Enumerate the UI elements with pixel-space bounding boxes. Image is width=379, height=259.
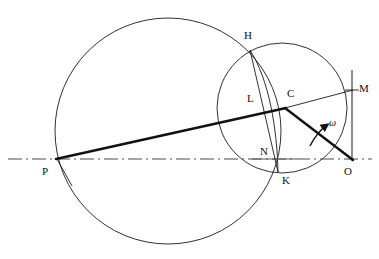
large-circle: [55, 18, 281, 244]
point-label-o: O: [344, 166, 352, 177]
geometry-canvas: [0, 0, 379, 259]
segment-c-o: [285, 108, 353, 160]
segment-p-c: [56, 108, 286, 159]
geometry-figure: H C M L N K P O ω: [0, 0, 379, 259]
segment-c-m: [285, 90, 353, 108]
point-label-h: H: [244, 30, 252, 41]
segment-p-extension: [57, 159, 72, 186]
point-label-m: M: [359, 83, 369, 94]
point-label-p: P: [42, 166, 48, 177]
point-label-c: C: [287, 88, 294, 99]
point-label-k: K: [282, 175, 290, 186]
angle-label-omega: ω: [329, 118, 336, 128]
point-label-n: N: [260, 146, 268, 157]
point-label-l: L: [247, 93, 254, 104]
